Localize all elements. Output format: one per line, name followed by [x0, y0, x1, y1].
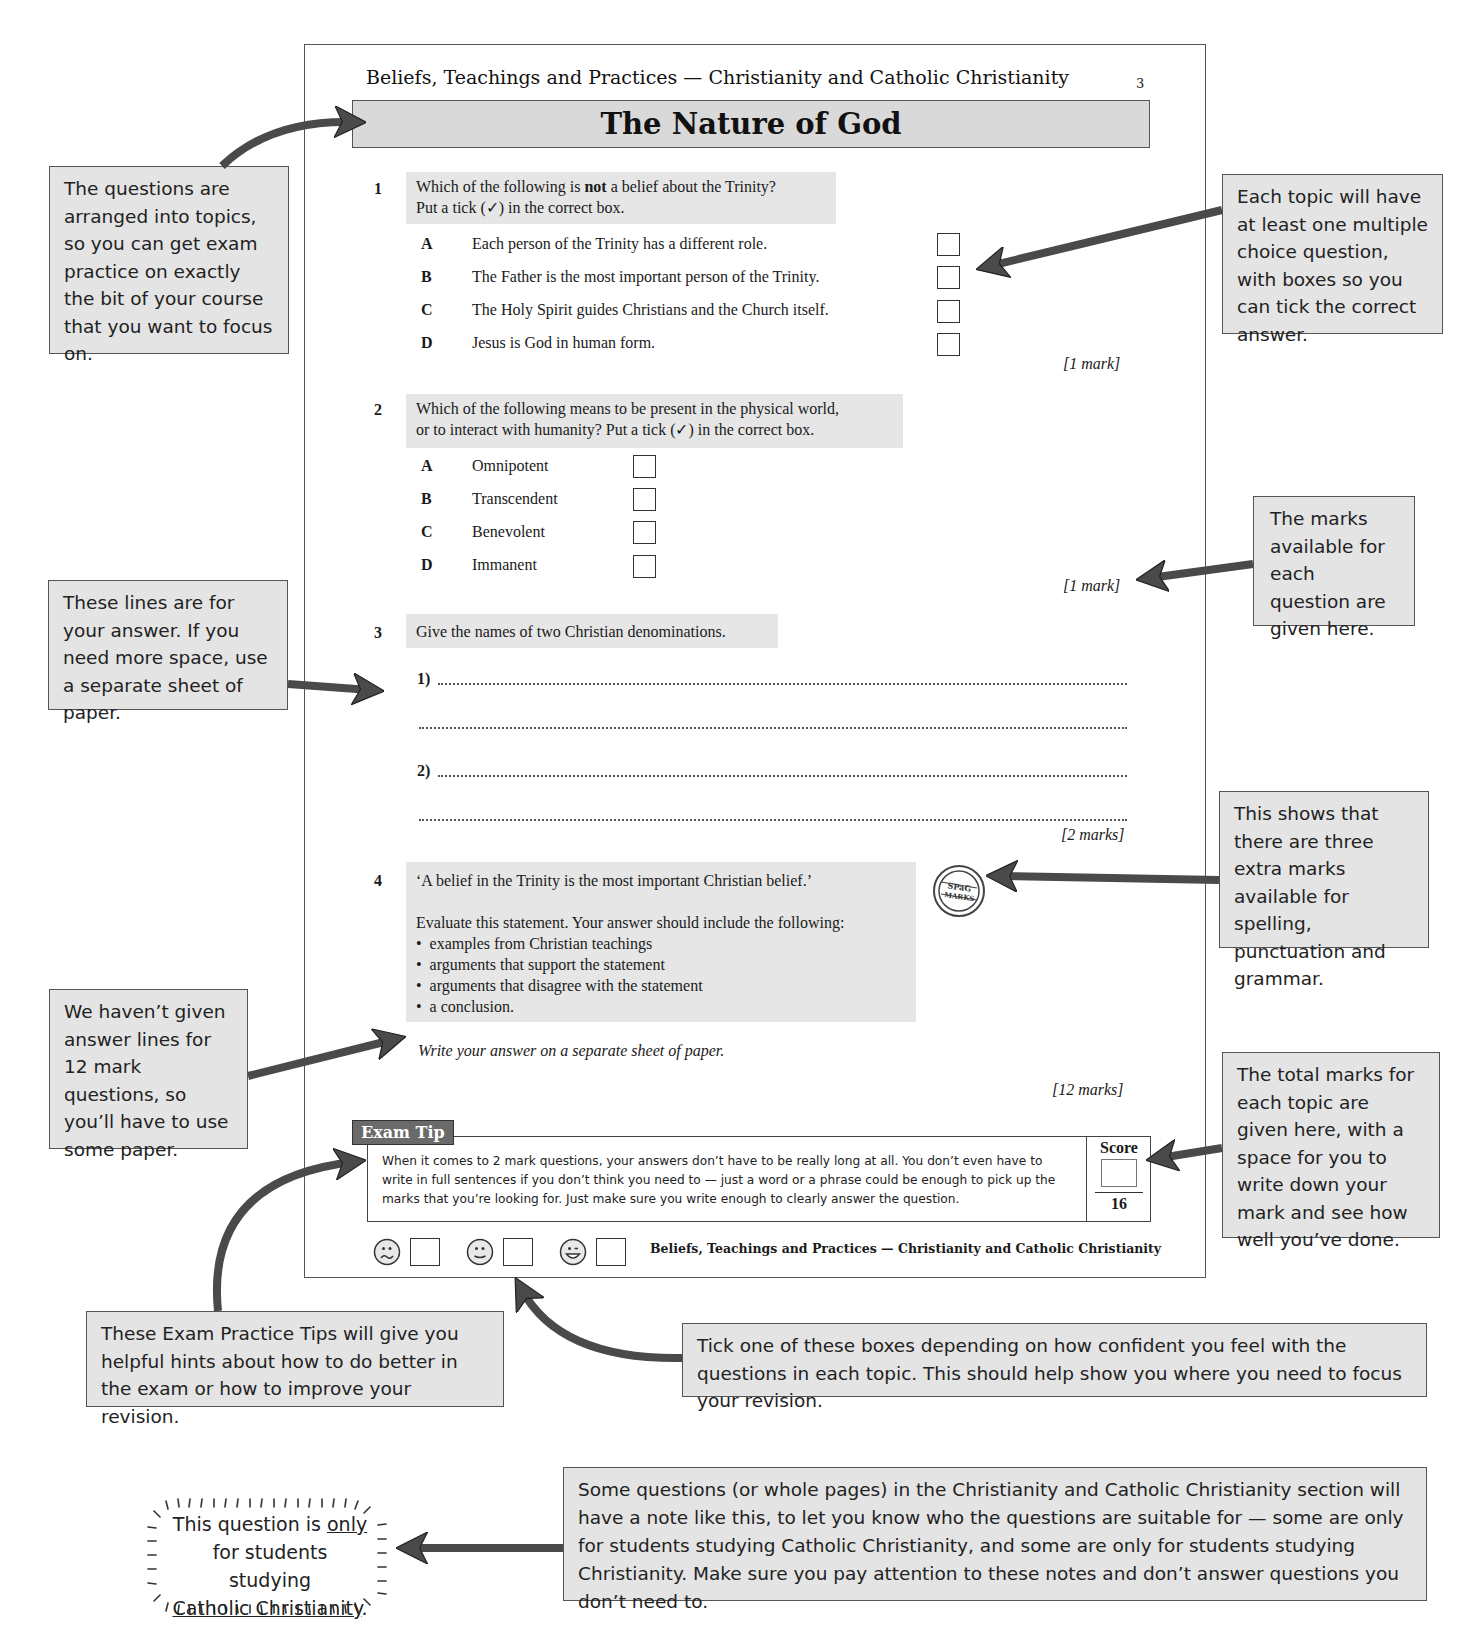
arrow-to-tickboxes-icon	[990, 210, 1222, 266]
arrow-to-title-icon	[222, 122, 352, 166]
arrow-to-confidence-boxes-icon	[522, 1290, 682, 1358]
arrow-to-answer-lines-icon	[288, 684, 370, 690]
arrow-to-answer-note-icon	[248, 1040, 392, 1076]
arrow-to-marks-icon	[1150, 564, 1253, 578]
arrow-to-spag-icon	[1000, 876, 1219, 880]
callout-arrows	[0, 0, 1477, 1643]
arrow-to-exam-tip-icon	[217, 1162, 352, 1311]
arrow-to-score-icon	[1160, 1148, 1222, 1158]
